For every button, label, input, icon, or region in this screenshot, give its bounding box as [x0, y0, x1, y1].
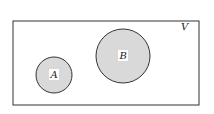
set-b-label: B: [119, 50, 127, 61]
set-a-label: A: [50, 69, 58, 80]
venn-diagram: V A B: [0, 0, 214, 114]
